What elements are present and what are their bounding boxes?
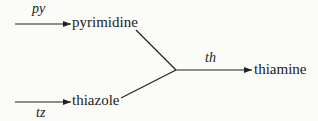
tz-label: tz xyxy=(36,106,45,120)
py-label: py xyxy=(32,2,45,16)
th-label: th xyxy=(205,51,216,65)
pyrimidine-branch xyxy=(136,30,176,70)
thiazole-branch xyxy=(121,70,176,98)
thiazole-node: thiazole xyxy=(72,93,119,108)
pyrimidine-node: pyrimidine xyxy=(72,15,138,30)
thiamine-node: thiamine xyxy=(254,62,307,77)
